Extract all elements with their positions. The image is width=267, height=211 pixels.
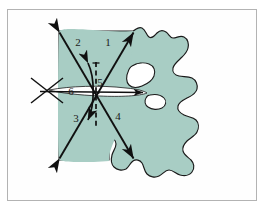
figure-root: 2 1 5 6 3 4 (0, 0, 267, 211)
measure-label-6: 6 (68, 85, 74, 97)
measure-label-4: 4 (115, 110, 121, 122)
measure-label-3: 3 (73, 112, 79, 124)
measure-label-1: 1 (105, 36, 111, 48)
horizontal-axis (40, 92, 143, 93)
vertebra-diagram: 2 1 5 6 3 4 (0, 0, 267, 211)
measure-label-2: 2 (75, 36, 81, 48)
measure-label-5: 5 (97, 76, 103, 88)
vertebra-outline (58, 27, 198, 177)
